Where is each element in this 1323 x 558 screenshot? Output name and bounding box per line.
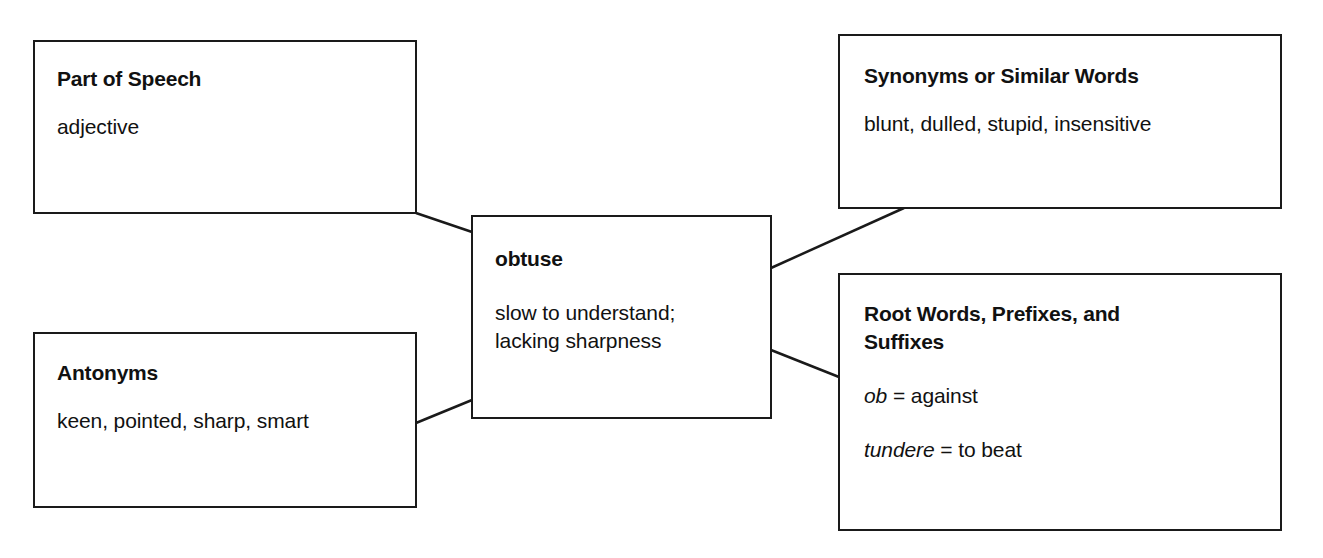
synonyms-value: blunt, dulled, stupid, insensitive (864, 110, 1258, 138)
center-word-box: obtuse slow to understand; lacking sharp… (471, 215, 772, 419)
synonyms-box: Synonyms or Similar Words blunt, dulled,… (838, 34, 1282, 209)
root-meaning: to beat (958, 438, 1022, 461)
antonyms-value: keen, pointed, sharp, smart (57, 407, 393, 435)
center-definition-line-1: slow to understand; (495, 299, 748, 327)
roots-title-line-2: Suffixes (864, 328, 1258, 356)
center-word: obtuse (495, 245, 748, 273)
antonyms-title: Antonyms (57, 359, 393, 387)
root-entry: tundere = to beat (864, 436, 1258, 464)
center-definition-line-2: lacking sharpness (495, 327, 748, 355)
root-separator: = (887, 384, 911, 407)
part-of-speech-value: adjective (57, 113, 393, 141)
part-of-speech-title: Part of Speech (57, 65, 393, 93)
root-term: tundere (864, 438, 935, 461)
connector-roots (771, 350, 839, 377)
root-term: ob (864, 384, 887, 407)
roots-title-line-1: Root Words, Prefixes, and (864, 300, 1258, 328)
part-of-speech-box: Part of Speech adjective (33, 40, 417, 214)
synonyms-title: Synonyms or Similar Words (864, 62, 1258, 90)
root-meaning: against (911, 384, 978, 407)
connector-part-of-speech (416, 213, 472, 232)
root-separator: = (935, 438, 959, 461)
connector-antonyms (416, 400, 472, 423)
roots-box: Root Words, Prefixes, and Suffixes ob = … (838, 273, 1282, 531)
connector-synonyms (771, 208, 904, 268)
antonyms-box: Antonyms keen, pointed, sharp, smart (33, 332, 417, 508)
root-entry: ob = against (864, 382, 1258, 410)
